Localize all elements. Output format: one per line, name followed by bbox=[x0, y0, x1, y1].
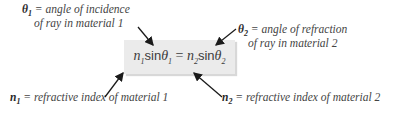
theta2-arrow bbox=[216, 29, 236, 45]
n2-arrow bbox=[194, 73, 222, 97]
pointer-arrows bbox=[0, 0, 397, 116]
theta1-arrow bbox=[138, 27, 153, 45]
n1-arrow bbox=[105, 73, 123, 97]
